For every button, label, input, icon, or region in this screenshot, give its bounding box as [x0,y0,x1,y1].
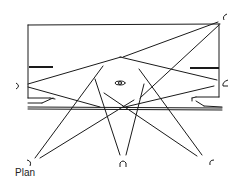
viewer-right-icon [223,80,228,86]
viewer-bottom-right-icon [210,160,214,165]
figure-caption: Plan [15,167,35,178]
doorway-left [28,98,55,103]
viewer-top-right-icon [223,14,227,20]
viewer-left-icon [16,83,19,89]
sight-lines [28,22,219,158]
room-outline [28,24,220,98]
viewer-bottom-center-icon [120,161,126,167]
partition-walls [29,67,219,68]
center-object [115,81,125,85]
doorway-right [192,97,222,107]
plan-diagram [0,0,238,188]
viewer-bottom-left-icon [27,160,31,166]
